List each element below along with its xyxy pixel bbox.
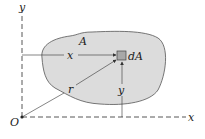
y-axis-label: y (18, 1, 26, 14)
x-distance-label: x (67, 49, 74, 62)
radius-label: r (68, 83, 74, 96)
x-axis-label: x (188, 111, 195, 124)
radius-line-lower (22, 93, 64, 117)
origin-label: O (10, 116, 19, 129)
y-distance-label: y (117, 84, 125, 97)
element-label: dA (128, 50, 143, 63)
region-label: A (78, 35, 87, 48)
area-element-diagram: y x O A dA x y r (0, 0, 205, 139)
area-element-da (117, 51, 126, 60)
